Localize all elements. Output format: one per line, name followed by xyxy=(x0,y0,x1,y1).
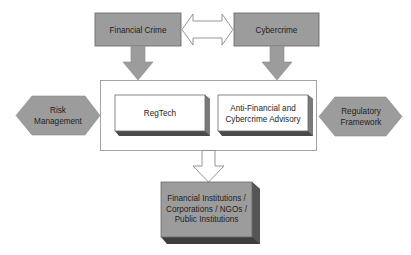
regulatory-framework-label-line1: Regulatory xyxy=(341,107,382,116)
advisory-box: Anti-Financial and Cybercrime Advisory xyxy=(218,95,313,136)
regulatory-framework-label-line2: Framework xyxy=(341,118,383,127)
down-arrow-financial-crime xyxy=(123,46,153,80)
advisory-label-line2: Cybercrime Advisory xyxy=(225,115,301,124)
target-label-line2: Corporations / NGOs / xyxy=(166,205,248,214)
down-arrow-to-target xyxy=(193,151,224,183)
financial-crime-label: Financial Crime xyxy=(110,26,167,35)
advisory-label-line1: Anti-Financial and xyxy=(230,104,296,113)
cybercrime-box: Cybercrime xyxy=(234,13,319,46)
regtech-box: RegTech xyxy=(115,95,210,136)
bidirectional-arrow xyxy=(182,14,233,45)
regtech-label: RegTech xyxy=(144,109,177,118)
risk-management-label-line1: Risk xyxy=(50,106,67,115)
target-label-line1: Financial Institutions / xyxy=(167,194,246,203)
risk-management-hexagon: Risk Management xyxy=(16,96,100,135)
financial-crime-box: Financial Crime xyxy=(95,13,181,46)
cybercrime-label: Cybercrime xyxy=(256,26,298,35)
diagram-canvas: Financial Crime Cybercrime RegTech Anti-… xyxy=(0,0,411,255)
target-label-line3: Public Institutions xyxy=(175,215,239,224)
down-arrow-cybercrime xyxy=(262,46,292,80)
risk-management-label-line2: Management xyxy=(34,117,83,126)
regulatory-framework-hexagon: Regulatory Framework xyxy=(319,97,402,136)
target-institutions-box: Financial Institutions / Corporations / … xyxy=(161,182,260,244)
